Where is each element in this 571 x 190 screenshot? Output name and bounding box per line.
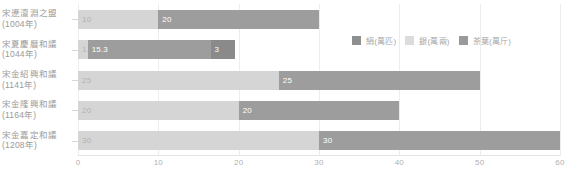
category-label: 宋金嘉定和議(1208年) — [2, 130, 74, 151]
bar-segment[interactable]: 20 — [78, 101, 239, 120]
bar-value-label: 20 — [158, 15, 171, 24]
category-label: 宋遼澶淵之盟(1004年) — [2, 8, 74, 29]
category-label-name: 宋夏慶曆和議 — [2, 39, 74, 50]
bar-row: 1.215.33 — [78, 40, 235, 59]
bar-value-label: 20 — [239, 106, 252, 115]
bar-segment[interactable]: 25 — [78, 71, 279, 90]
bar-value-label: 30 — [78, 136, 91, 145]
x-tick-label: 40 — [395, 158, 404, 167]
category-label-name: 宋遼澶淵之盟 — [2, 8, 74, 19]
bar-segment[interactable]: 20 — [239, 101, 400, 120]
x-tick-label: 60 — [555, 158, 564, 167]
gridline — [560, 4, 561, 156]
chart-legend: 絹(萬匹)銀(萬兩)茶葉(萬斤) — [352, 35, 511, 46]
legend-label: 銀(萬兩) — [419, 35, 449, 46]
bar-value-label: 25 — [78, 76, 91, 85]
bar-row: 3030 — [78, 131, 560, 150]
legend-label: 絹(萬匹) — [366, 35, 396, 46]
category-label-year: (1208年) — [2, 140, 74, 151]
bar-segment[interactable]: 1.2 — [78, 40, 88, 59]
category-label-name: 宋金紹興和議 — [2, 69, 74, 80]
category-label-year: (1164年) — [2, 110, 74, 121]
x-tick-label: 30 — [314, 158, 323, 167]
category-label-name: 宋金嘉定和議 — [2, 130, 74, 141]
legend-label: 茶葉(萬斤) — [473, 35, 512, 46]
category-label-name: 宋金隆興和議 — [2, 99, 74, 110]
legend-swatch-icon — [459, 36, 468, 45]
category-axis-labels: 宋遼澶淵之盟(1004年)宋夏慶曆和議(1044年)宋金紹興和議(1141年)宋… — [0, 4, 78, 156]
bar-rows: 10201.215.33252520203030 — [78, 4, 560, 156]
bar-segment[interactable]: 30 — [319, 131, 560, 150]
bar-value-label: 25 — [279, 76, 292, 85]
bar-row: 2020 — [78, 101, 399, 120]
legend-item[interactable]: 絹(萬匹) — [352, 35, 396, 46]
plot-area: 10201.215.33252520203030 — [78, 4, 560, 156]
bar-value-label: 15.3 — [88, 45, 108, 54]
category-label: 宋金隆興和議(1164年) — [2, 99, 74, 120]
bar-row: 2525 — [78, 71, 480, 90]
x-axis-ticks: 0102030405060 — [78, 158, 560, 172]
bar-value-label: 20 — [78, 106, 91, 115]
bar-segment[interactable]: 10 — [78, 10, 158, 29]
category-label: 宋金紹興和議(1141年) — [2, 69, 74, 90]
bar-value-label: 10 — [78, 15, 91, 24]
x-tick-label: 10 — [154, 158, 163, 167]
x-tick-label: 20 — [234, 158, 243, 167]
legend-swatch-icon — [405, 36, 414, 45]
bar-value-label: 30 — [319, 136, 332, 145]
stacked-bar-chart: 宋遼澶淵之盟(1004年)宋夏慶曆和議(1044年)宋金紹興和議(1141年)宋… — [0, 0, 571, 190]
bar-segment[interactable]: 3 — [211, 40, 235, 59]
category-label-year: (1044年) — [2, 49, 74, 60]
legend-swatch-icon — [352, 36, 361, 45]
legend-item[interactable]: 茶葉(萬斤) — [459, 35, 512, 46]
bar-row: 1020 — [78, 10, 319, 29]
bar-segment[interactable]: 30 — [78, 131, 319, 150]
bar-segment[interactable]: 25 — [279, 71, 480, 90]
bar-segment[interactable]: 20 — [158, 10, 319, 29]
bar-value-label: 3 — [211, 45, 220, 54]
category-label-year: (1141年) — [2, 80, 74, 91]
x-tick-label: 0 — [76, 158, 81, 167]
x-axis-line — [78, 155, 560, 156]
category-label: 宋夏慶曆和議(1044年) — [2, 39, 74, 60]
x-tick-label: 50 — [475, 158, 484, 167]
bar-segment[interactable]: 15.3 — [88, 40, 211, 59]
category-label-year: (1004年) — [2, 19, 74, 30]
legend-item[interactable]: 銀(萬兩) — [405, 35, 449, 46]
